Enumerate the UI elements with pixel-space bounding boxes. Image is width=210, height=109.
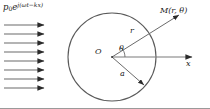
diagram-canvas — [0, 0, 210, 109]
field-point-label: M(r, θ) — [160, 7, 187, 15]
wave-exponent: j(ωt−kx) — [17, 1, 43, 8]
x-axis-label: x — [186, 60, 191, 68]
incident-plane-wave-arrows — [4, 25, 44, 88]
radial-distance-label: r — [130, 27, 134, 35]
scattering-diagram: p0ej(ωt−kx) M(r, θ) O r θ a x — [0, 0, 210, 109]
cylinder-radius-label: a — [120, 70, 125, 78]
figure-bottom-border — [0, 108, 210, 109]
origin-dot — [111, 56, 113, 58]
radius-ray-a — [112, 57, 144, 85]
angle-label: θ — [119, 45, 124, 53]
incident-wave-label: p0ej(ωt−kx) — [3, 2, 43, 12]
origin-label: O — [95, 48, 102, 56]
